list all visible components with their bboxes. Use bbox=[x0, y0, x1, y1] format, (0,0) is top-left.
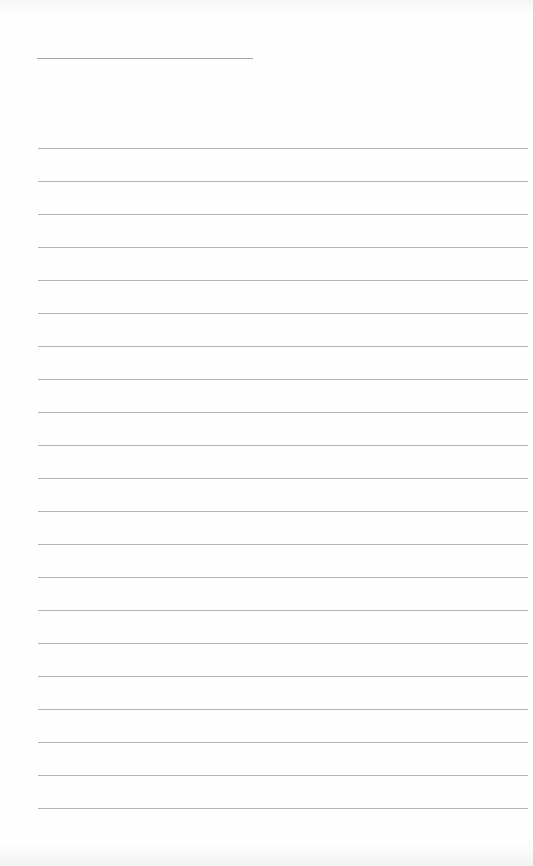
ruled-line bbox=[38, 610, 528, 611]
ruled-line bbox=[38, 445, 528, 446]
ruled-line bbox=[38, 808, 528, 809]
ruled-line bbox=[38, 544, 528, 545]
ruled-line bbox=[38, 379, 528, 380]
ruled-line bbox=[38, 346, 528, 347]
ruled-line bbox=[38, 247, 528, 248]
ruled-line bbox=[38, 148, 528, 149]
ruled-line bbox=[38, 181, 528, 182]
scan-shadow-bottom bbox=[0, 842, 533, 866]
ruled-line bbox=[38, 775, 528, 776]
lined-page bbox=[0, 0, 533, 866]
ruled-line bbox=[38, 742, 528, 743]
ruled-line bbox=[38, 643, 528, 644]
scan-shadow-top bbox=[0, 0, 533, 14]
ruled-line bbox=[38, 412, 528, 413]
ruled-line bbox=[38, 709, 528, 710]
ruled-line bbox=[38, 577, 528, 578]
header-rule bbox=[37, 58, 253, 59]
ruled-line bbox=[38, 280, 528, 281]
ruled-line bbox=[38, 214, 528, 215]
ruled-line bbox=[38, 478, 528, 479]
ruled-line bbox=[38, 676, 528, 677]
ruled-line bbox=[38, 511, 528, 512]
ruled-line bbox=[38, 313, 528, 314]
